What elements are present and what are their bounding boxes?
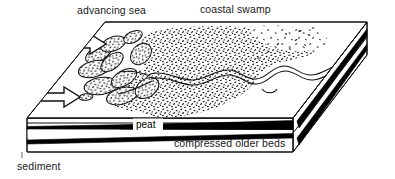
block-diagram-canvas: advancing sea coastal swamp peat compres… [0,0,395,179]
label-compressed-older-beds: compressed older beds [174,137,285,149]
geologic-block-diagram: advancing sea coastal swamp peat compres… [0,0,395,179]
label-sediment: sediment [17,160,60,172]
label-advancing-sea: advancing sea [77,4,146,16]
label-peat: peat [136,119,156,130]
label-coastal-swamp: coastal swamp [200,3,271,15]
